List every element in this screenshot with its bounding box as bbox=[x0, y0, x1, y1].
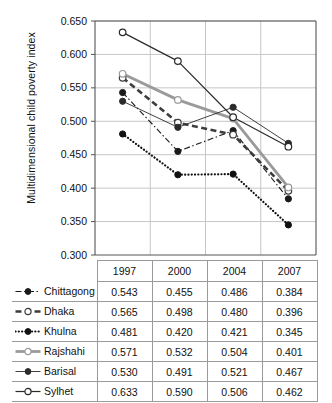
cell-rajshahi-1997: 0.571 bbox=[97, 342, 152, 362]
legend-swatch-dhaka bbox=[15, 306, 41, 317]
legend-item-barisal[interactable]: Barisal bbox=[12, 362, 97, 382]
y-tick-label: 0.650 bbox=[61, 15, 87, 27]
cell-barisal-2007: 0.467 bbox=[262, 362, 317, 382]
cell-chittagong-2004: 0.486 bbox=[207, 282, 262, 302]
legend-label: Dhaka bbox=[44, 306, 74, 317]
cell-sylhet-1997: 0.633 bbox=[97, 382, 152, 402]
cell-sylhet-2007: 0.462 bbox=[262, 382, 317, 402]
y-tick-label: 0.500 bbox=[61, 115, 87, 127]
legend-label: Rajshahi bbox=[44, 346, 85, 357]
column-header-1997: 1997 bbox=[97, 261, 152, 282]
cell-rajshahi-2000: 0.532 bbox=[152, 342, 207, 362]
cell-khulna-1997: 0.481 bbox=[97, 322, 152, 342]
data-point-barisal-1997 bbox=[120, 98, 126, 104]
y-axis-tick-labels: 0.3000.3500.4000.4500.5000.5500.6000.650 bbox=[61, 15, 87, 261]
legend-swatch-chittagong bbox=[15, 286, 41, 297]
y-tick-label: 0.400 bbox=[61, 182, 87, 194]
legend-swatch-rajshahi bbox=[15, 346, 41, 357]
cell-dhaka-2000: 0.498 bbox=[152, 302, 207, 322]
legend-swatch-barisal bbox=[15, 366, 41, 377]
table-row: Dhaka0.5650.4980.4800.396 bbox=[12, 302, 317, 322]
legend-item-dhaka[interactable]: Dhaka bbox=[12, 302, 97, 322]
y-tick-label: 0.600 bbox=[61, 48, 87, 60]
data-point-sylhet-2004 bbox=[230, 114, 237, 121]
data-point-chittagong-2007 bbox=[285, 196, 291, 202]
table-row: Khulna0.4810.4200.4210.345 bbox=[12, 322, 317, 342]
y-tick-label: 0.300 bbox=[61, 249, 87, 261]
y-tick-label: 0.550 bbox=[61, 81, 87, 93]
data-point-barisal-2000 bbox=[175, 124, 181, 130]
column-header-2000: 2000 bbox=[152, 261, 207, 282]
data-point-chittagong-2000 bbox=[175, 148, 181, 154]
cell-sylhet-2004: 0.506 bbox=[207, 382, 262, 402]
cell-khulna-2004: 0.421 bbox=[207, 322, 262, 342]
cell-rajshahi-2007: 0.401 bbox=[262, 342, 317, 362]
legend-label: Khulna bbox=[44, 326, 77, 337]
y-tick-label: 0.450 bbox=[61, 148, 87, 160]
table-row: Sylhet0.6330.5900.5060.462 bbox=[12, 382, 317, 402]
cell-khulna-2007: 0.345 bbox=[262, 322, 317, 342]
cell-dhaka-1997: 0.565 bbox=[97, 302, 152, 322]
data-point-khulna-1997 bbox=[120, 131, 126, 137]
data-point-dhaka-2004 bbox=[230, 131, 237, 138]
column-header-2004: 2004 bbox=[207, 261, 262, 282]
y-axis-ticks bbox=[91, 21, 95, 255]
legend-swatch-sylhet bbox=[15, 386, 41, 397]
table-header-row: 1997200020042007 bbox=[12, 261, 317, 282]
cell-chittagong-1997: 0.543 bbox=[97, 282, 152, 302]
data-point-sylhet-2000 bbox=[175, 58, 182, 65]
cell-chittagong-2000: 0.455 bbox=[152, 282, 207, 302]
y-tick-label: 0.350 bbox=[61, 215, 87, 227]
table-row: Rajshahi0.5710.5320.5040.401 bbox=[12, 342, 317, 362]
legend-item-chittagong[interactable]: Chittagong bbox=[12, 282, 97, 302]
cell-khulna-2000: 0.420 bbox=[152, 322, 207, 342]
data-point-khulna-2007 bbox=[285, 222, 291, 228]
plot-region: Multidimensional child poverty index 0.3… bbox=[0, 0, 332, 262]
legend-item-sylhet[interactable]: Sylhet bbox=[12, 382, 97, 402]
data-point-chittagong-1997 bbox=[120, 89, 126, 95]
table-row: Chittagong0.5430.4550.4860.384 bbox=[12, 282, 317, 302]
legend-swatch-khulna bbox=[15, 326, 41, 337]
cell-dhaka-2007: 0.396 bbox=[262, 302, 317, 322]
data-point-barisal-2004 bbox=[230, 104, 236, 110]
legend-label: Chittagong bbox=[44, 286, 95, 297]
cell-sylhet-2000: 0.590 bbox=[152, 382, 207, 402]
column-header-2007: 2007 bbox=[262, 261, 317, 282]
chart-figure: Multidimensional child poverty index 0.3… bbox=[0, 0, 332, 403]
legend-item-rajshahi[interactable]: Rajshahi bbox=[12, 342, 97, 362]
cell-rajshahi-2004: 0.504 bbox=[207, 342, 262, 362]
legend-label: Sylhet bbox=[44, 386, 73, 397]
data-point-rajshahi-1997 bbox=[119, 71, 126, 78]
cell-chittagong-2007: 0.384 bbox=[262, 282, 317, 302]
data-point-khulna-2004 bbox=[230, 171, 236, 177]
cell-barisal-1997: 0.530 bbox=[97, 362, 152, 382]
cell-dhaka-2004: 0.480 bbox=[207, 302, 262, 322]
data-point-rajshahi-2007 bbox=[285, 184, 292, 191]
cell-barisal-2004: 0.521 bbox=[207, 362, 262, 382]
legend-label: Barisal bbox=[44, 366, 76, 377]
data-point-rajshahi-2000 bbox=[175, 97, 182, 104]
legend-item-khulna[interactable]: Khulna bbox=[12, 322, 97, 342]
data-table: 1997200020042007Chittagong0.5430.4550.48… bbox=[12, 260, 318, 402]
data-point-sylhet-1997 bbox=[119, 29, 126, 36]
data-point-sylhet-2007 bbox=[285, 143, 292, 150]
cell-barisal-2000: 0.491 bbox=[152, 362, 207, 382]
table-corner-cell bbox=[12, 261, 97, 282]
data-point-khulna-2000 bbox=[175, 172, 181, 178]
table-row: Barisal0.5300.4910.5210.467 bbox=[12, 362, 317, 382]
line-chart-svg: 0.3000.3500.4000.4500.5000.5500.6000.650 bbox=[0, 0, 332, 262]
